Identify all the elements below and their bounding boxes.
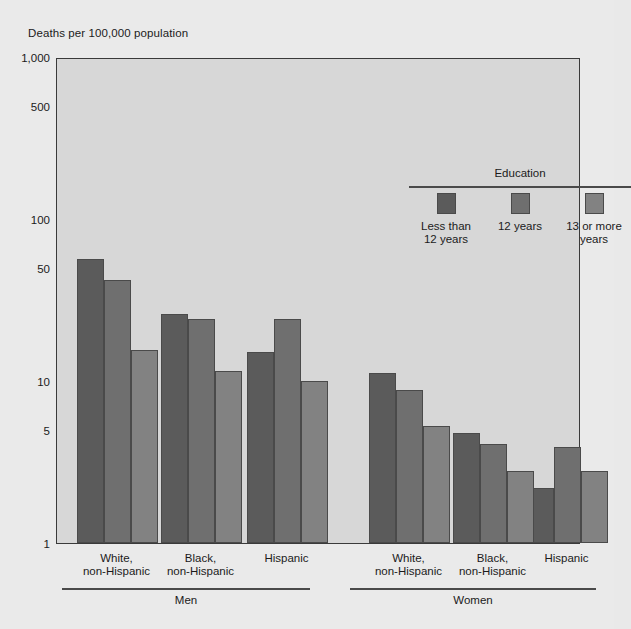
legend-swatch-icon: [585, 193, 604, 214]
group-divider: [350, 588, 596, 590]
legend-swatch-icon: [511, 193, 530, 214]
bar: [507, 471, 534, 543]
bar: [581, 471, 608, 543]
y-axis-tick-label: 1,000: [0, 52, 50, 64]
bar: [131, 350, 158, 543]
y-axis-tick-label: 100: [0, 214, 50, 226]
bar: [396, 390, 423, 543]
bar: [77, 259, 104, 543]
bar: [301, 381, 328, 543]
bar: [215, 371, 242, 543]
bar: [369, 373, 396, 543]
group-divider: [62, 588, 310, 590]
bar: [480, 444, 507, 543]
chart-legend: Education Less than 12 years 12 years 13…: [409, 167, 631, 253]
legend-title: Education: [409, 167, 631, 179]
legend-item-label: 12 years: [483, 220, 557, 233]
legend-item-label: 13 or more years: [557, 220, 631, 245]
legend-swatch-icon: [437, 193, 456, 214]
x-axis-category-label: Hispanic: [512, 552, 622, 565]
bar: [104, 280, 131, 543]
y-axis-tick-labels: 1510501005001,000: [0, 0, 52, 629]
bar: [188, 319, 215, 543]
bar: [274, 319, 301, 543]
plot-area: Education Less than 12 years 12 years 13…: [56, 58, 580, 544]
legend-item-label: Less than 12 years: [409, 220, 483, 245]
legend-item-13-or-more-years: 13 or more years: [557, 193, 631, 245]
x-axis-group-label: Women: [350, 594, 596, 606]
bar: [161, 314, 188, 543]
bar: [423, 426, 450, 543]
bar: [453, 433, 480, 543]
legend-item-12-years: 12 years: [483, 193, 557, 233]
bar: [554, 447, 581, 543]
x-axis-group-label: Men: [62, 594, 310, 606]
legend-item-less-than-12-years: Less than 12 years: [409, 193, 483, 245]
y-axis-tick-label: 50: [0, 263, 50, 275]
y-axis-tick-label: 1: [0, 538, 50, 550]
bar: [247, 352, 274, 543]
y-axis-tick-label: 10: [0, 376, 50, 388]
y-axis-tick-label: 500: [0, 101, 50, 113]
y-axis-tick-label: 5: [0, 425, 50, 437]
y-axis-title: Deaths per 100,000 population: [28, 27, 188, 39]
legend-divider: [409, 186, 631, 188]
x-axis-category-label: Hispanic: [232, 552, 342, 565]
